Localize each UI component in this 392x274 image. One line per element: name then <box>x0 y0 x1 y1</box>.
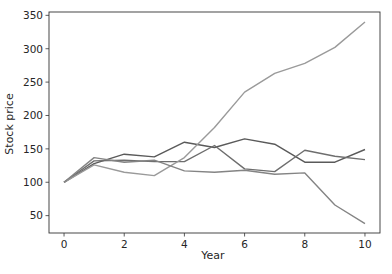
y-tick-label: 300 <box>23 43 43 55</box>
y-tick-label: 200 <box>23 109 43 121</box>
plot-lines <box>64 22 365 224</box>
y-tick-label: 100 <box>23 176 43 188</box>
x-axis-label: Year <box>200 249 225 262</box>
series-line-4 <box>64 158 365 224</box>
y-tick-label: 350 <box>23 9 43 21</box>
y-tick-label: 150 <box>23 143 43 155</box>
x-tick-label: 8 <box>301 238 308 250</box>
x-tick-label: 0 <box>61 238 68 250</box>
x-tick-label: 6 <box>241 238 248 250</box>
x-tick-label: 2 <box>121 238 128 250</box>
y-tick-label: 50 <box>30 209 43 221</box>
y-axis-label: Stock price <box>3 93 16 155</box>
series-line-2 <box>64 146 365 183</box>
x-axis-ticks: 0246810 <box>61 233 372 250</box>
y-tick-label: 250 <box>23 76 43 88</box>
x-tick-label: 10 <box>358 238 371 250</box>
x-tick-label: 4 <box>181 238 188 250</box>
line-chart: 0246810 50100150200250300350 Year Stock … <box>0 0 392 274</box>
y-axis-ticks: 50100150200250300350 <box>23 9 49 221</box>
